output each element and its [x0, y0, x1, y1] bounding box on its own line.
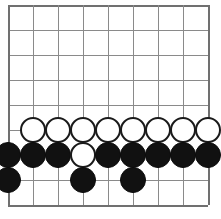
grid-line-vertical	[158, 5, 159, 205]
black-stone[interactable]	[120, 142, 146, 168]
black-stone[interactable]	[45, 142, 71, 168]
white-stone[interactable]	[70, 142, 96, 168]
black-stone[interactable]	[20, 142, 46, 168]
grid-line-vertical	[58, 5, 59, 205]
board-edge-horizontal	[8, 205, 208, 207]
black-stone[interactable]	[95, 142, 121, 168]
white-stone[interactable]	[195, 117, 221, 143]
black-stone[interactable]	[0, 142, 21, 168]
white-stone[interactable]	[120, 117, 146, 143]
black-stone[interactable]	[145, 142, 171, 168]
black-stone[interactable]	[70, 167, 96, 193]
black-stone[interactable]	[195, 142, 221, 168]
grid-line-vertical	[33, 5, 34, 205]
white-stone[interactable]	[170, 117, 196, 143]
board-root	[0, 0, 221, 219]
black-stone[interactable]	[120, 167, 146, 193]
grid-line-vertical	[183, 5, 184, 205]
white-stone[interactable]	[145, 117, 171, 143]
white-stone[interactable]	[20, 117, 46, 143]
black-stone[interactable]	[170, 142, 196, 168]
grid-line-vertical	[108, 5, 109, 205]
white-stone[interactable]	[70, 117, 96, 143]
board-edge-vertical	[208, 5, 210, 205]
white-stone[interactable]	[95, 117, 121, 143]
black-stone[interactable]	[0, 167, 21, 193]
board-surface[interactable]	[0, 0, 221, 219]
white-stone[interactable]	[45, 117, 71, 143]
